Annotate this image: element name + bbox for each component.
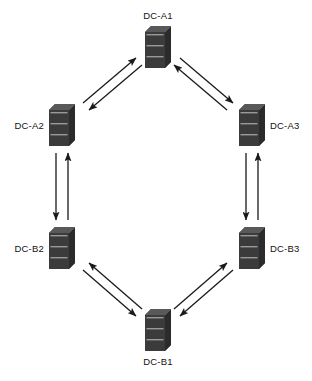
- node-label-dc-b2: DC-B2: [14, 243, 44, 254]
- server-icon: [239, 227, 265, 269]
- server-icon: [49, 104, 75, 146]
- server-icon: [145, 26, 171, 68]
- edge-arrow-b1-to-b3: [174, 263, 227, 309]
- node-label-dc-b3: DC-B3: [270, 243, 300, 254]
- edge-dc-a1-dc-a3: [174, 58, 233, 110]
- edge-arrow-b1-to-b2: [89, 263, 142, 309]
- node-label-dc-b1: DC-B1: [143, 356, 173, 367]
- edge-dc-a2-dc-b2: [56, 153, 68, 220]
- edge-arrow-a1-to-a2: [89, 65, 142, 110]
- node-label-dc-a2: DC-A2: [14, 120, 44, 131]
- edge-arrow-b2-to-b1: [83, 270, 136, 316]
- edge-arrow-b3-to-b1: [180, 270, 233, 316]
- node-label-dc-a3: DC-A3: [270, 120, 300, 131]
- edge-arrow-a3-to-a1: [174, 65, 227, 110]
- server-icon: [49, 227, 75, 269]
- edge-dc-a3-dc-b3: [246, 153, 258, 220]
- network-topology-diagram: DC-A1 DC-A2 DC-A3: [0, 0, 312, 381]
- server-icon: [239, 104, 265, 146]
- server-icon: [145, 309, 171, 351]
- edge-arrow-a2-to-a1: [83, 58, 136, 103]
- node-label-dc-a1: DC-A1: [143, 10, 173, 21]
- edge-dc-b1-dc-b3: [174, 263, 233, 316]
- edge-arrow-a1-to-a3: [180, 58, 233, 103]
- edge-dc-b2-dc-b1: [83, 263, 142, 316]
- edge-dc-a2-dc-a1: [83, 58, 142, 110]
